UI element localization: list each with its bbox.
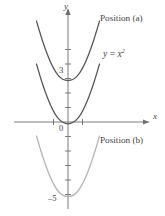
parabola-translation-figure: Position (a) Position (b) y = x2 y x 3 0… — [0, 0, 165, 216]
y-tick-label-3: 3 — [59, 66, 63, 75]
curve-label-position-b: Position (b) — [100, 136, 143, 145]
equation-exponent: 2 — [122, 47, 125, 54]
curve-label-equation: y = x2 — [103, 48, 125, 59]
y-axis — [65, 8, 70, 209]
equation-operator: = — [107, 48, 117, 59]
y-tick-label-negative-5: –5 — [48, 194, 57, 203]
x-axis-arrow-icon — [143, 119, 149, 124]
origin-label: 0 — [59, 124, 63, 133]
x-axis-label: x — [153, 112, 157, 121]
graph-canvas — [0, 0, 165, 216]
y-axis-label: y — [64, 2, 68, 11]
curve-label-position-a: Position (a) — [100, 14, 143, 23]
x-axis — [14, 119, 149, 124]
